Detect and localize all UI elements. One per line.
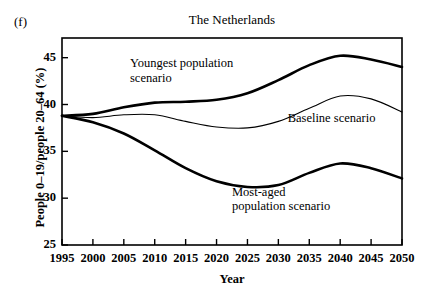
y-axis-title: People 0–19/people 20–64 (%)	[33, 38, 48, 258]
series-line-1	[62, 95, 402, 128]
series-line-0	[62, 56, 402, 116]
series-line-2	[62, 116, 402, 188]
axis-frame	[62, 38, 402, 245]
x-axis-title: Year	[62, 272, 402, 287]
axis-ticks	[62, 58, 402, 245]
data-series-layer	[62, 56, 402, 188]
plot-area	[0, 0, 432, 301]
plot-frame	[62, 38, 402, 245]
figure-panel: (f) The Netherlands People 0–19/people 2…	[0, 0, 432, 301]
panel-letter-label: (f)	[14, 14, 27, 30]
chart-title: The Netherlands	[62, 12, 402, 28]
